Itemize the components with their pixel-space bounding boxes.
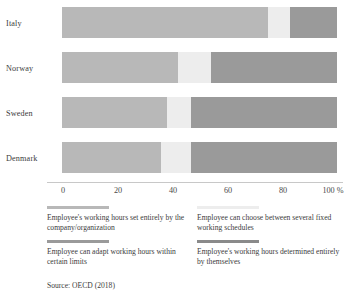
- bar-segment: [191, 97, 337, 128]
- legend-swatch-icon: [47, 206, 109, 209]
- bar-segment: [161, 142, 191, 173]
- x-axis-line: [47, 182, 343, 183]
- legend: Employee's working hours set entirely by…: [47, 206, 347, 266]
- bar-segment: [268, 7, 290, 38]
- bar-segment: [167, 97, 192, 128]
- axis-tick: 80: [279, 186, 287, 195]
- category-label-denmark: Denmark: [6, 153, 58, 162]
- bar-segment: [62, 97, 167, 128]
- bar-segment: [290, 7, 337, 38]
- axis-tick: 60: [224, 186, 232, 195]
- legend-item: Employee's working hours determined enti…: [197, 240, 347, 266]
- legend-swatch-icon: [197, 240, 259, 243]
- bar-segment: [62, 7, 268, 38]
- plot-area: Italy Norway Sweden Denmar: [0, 0, 353, 182]
- bar-track-italy: [62, 7, 337, 38]
- axis-tick: 40: [169, 186, 177, 195]
- bar-row: Norway: [0, 45, 353, 90]
- x-axis-ticks: 0 20 40 60 80 100 %: [0, 186, 353, 202]
- bar-track-norway: [62, 52, 337, 83]
- bar-track-denmark: [62, 142, 337, 173]
- bar-segment: [178, 52, 211, 83]
- legend-item: Employee can adapt working hours within …: [47, 240, 197, 266]
- category-label-sweden: Sweden: [6, 108, 58, 117]
- legend-label: Employee can adapt working hours within …: [47, 247, 191, 266]
- bar-track-sweden: [62, 97, 337, 128]
- source-note: Source: OECD (2018): [47, 281, 115, 290]
- category-label-italy: Italy: [6, 18, 58, 27]
- legend-swatch-icon: [197, 206, 259, 209]
- legend-label: Employee's working hours determined enti…: [197, 247, 341, 266]
- axis-tick: 20: [114, 186, 122, 195]
- stacked-bar-chart: Italy Norway Sweden Denmar: [0, 0, 353, 299]
- bar-segment: [62, 52, 178, 83]
- bar-segment: [211, 52, 338, 83]
- bar-row: Sweden: [0, 90, 353, 135]
- bar-segment: [62, 142, 161, 173]
- legend-label: Employee can choose between several fixe…: [197, 213, 341, 232]
- axis-tick: 100 %: [322, 186, 343, 195]
- legend-label: Employee's working hours set entirely by…: [47, 213, 191, 232]
- legend-swatch-icon: [47, 240, 109, 243]
- bar-row: Italy: [0, 0, 353, 45]
- legend-item: Employee can choose between several fixe…: [197, 206, 347, 232]
- axis-tick: 0: [61, 186, 65, 195]
- bar-row: Denmark: [0, 135, 353, 180]
- category-label-norway: Norway: [6, 63, 58, 72]
- legend-item: Employee's working hours set entirely by…: [47, 206, 197, 232]
- bar-segment: [191, 142, 337, 173]
